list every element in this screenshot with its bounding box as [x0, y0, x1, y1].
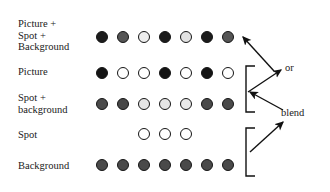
- dot: [96, 159, 108, 171]
- row-label-picture: Picture: [18, 66, 48, 78]
- dot: [138, 98, 150, 110]
- dot: [138, 159, 150, 171]
- dot: [159, 31, 171, 43]
- dot: [222, 159, 234, 171]
- dot: [96, 67, 108, 79]
- dot: [96, 31, 108, 43]
- blend-label: blend: [281, 107, 304, 118]
- arrow-to-combined-row: [243, 37, 274, 71]
- dot: [201, 67, 213, 79]
- dot: [159, 98, 171, 110]
- dot: [222, 67, 234, 79]
- arrow-bracket1-to-or: [248, 70, 281, 92]
- dot: [117, 98, 129, 110]
- dot: [180, 67, 192, 79]
- brackets-group: [246, 66, 255, 176]
- arrows-group: [243, 37, 283, 152]
- dot: [201, 98, 213, 110]
- dot: [159, 67, 171, 79]
- row-label-spot-plus-background: Spot + background: [18, 92, 68, 115]
- arrow-bracket2-to-blend: [250, 122, 283, 152]
- figure-canvas: Picture + Spot + Background Picture Spot…: [0, 0, 330, 192]
- bracket-spot-background: [246, 128, 255, 176]
- dot: [117, 67, 129, 79]
- dot: [117, 31, 129, 43]
- dot: [96, 98, 108, 110]
- dot: [222, 31, 234, 43]
- dot: [201, 159, 213, 171]
- dot: [138, 128, 150, 140]
- dot: [138, 67, 150, 79]
- dot: [222, 98, 234, 110]
- dot: [180, 159, 192, 171]
- dot: [201, 31, 213, 43]
- bracket-picture-spotbackground: [246, 66, 255, 112]
- dot: [180, 98, 192, 110]
- arrow-blend-to-bracket1: [250, 92, 283, 110]
- dot: [180, 31, 192, 43]
- or-label: or: [285, 62, 294, 73]
- dot: [159, 128, 171, 140]
- row-label-spot: Spot: [18, 129, 37, 141]
- dot: [159, 159, 171, 171]
- row-label-picture-spot-background: Picture + Spot + Background: [18, 18, 69, 53]
- dot: [138, 31, 150, 43]
- row-label-background: Background: [18, 160, 69, 172]
- dot: [117, 159, 129, 171]
- dot: [180, 128, 192, 140]
